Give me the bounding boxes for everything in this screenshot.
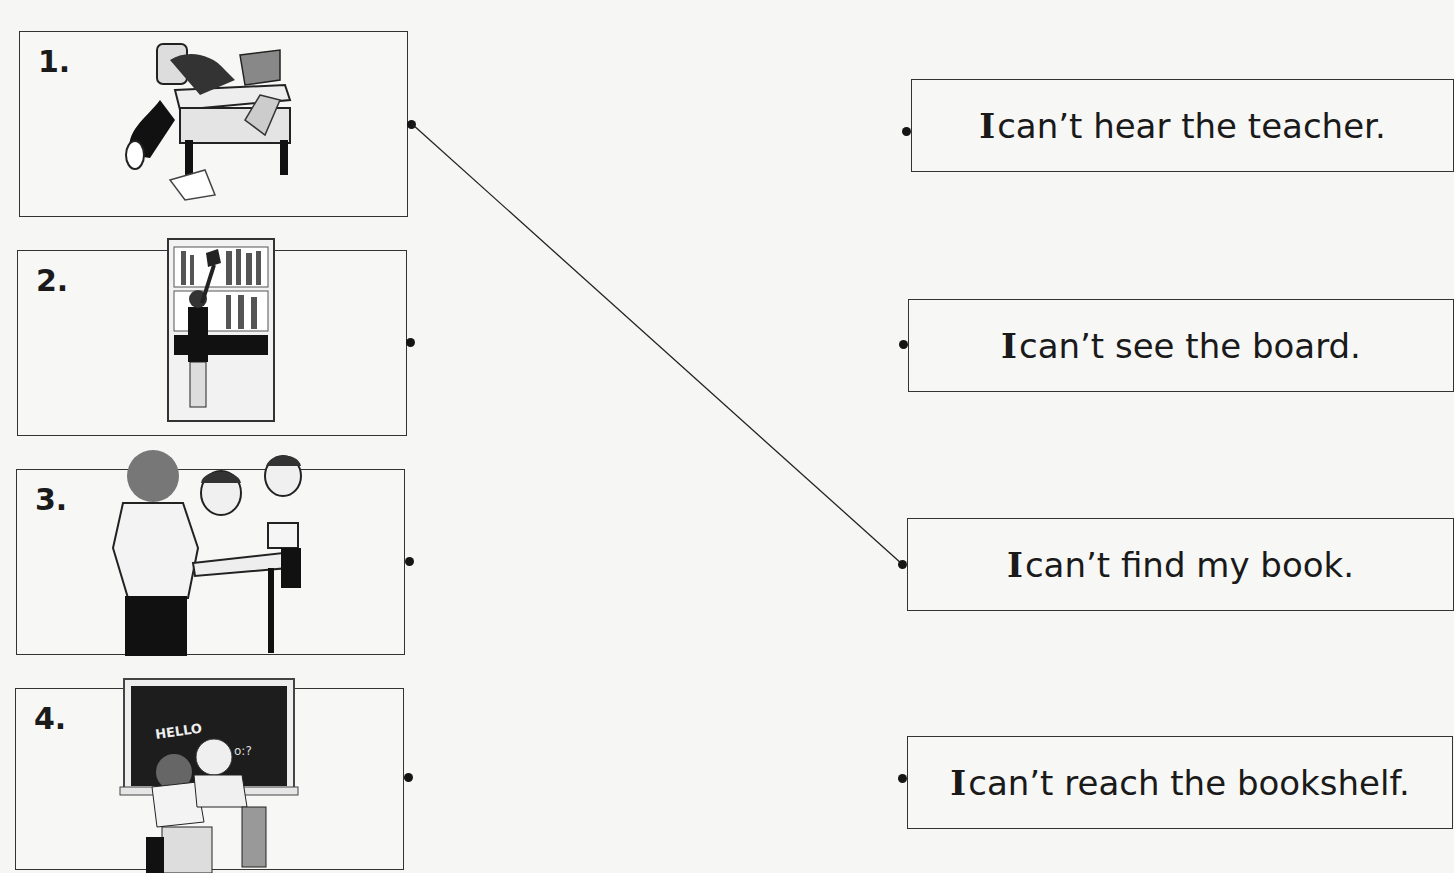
picture-number-2: 2.	[36, 263, 68, 298]
connector-dot-picture-1[interactable]	[407, 120, 416, 129]
sentence-text: can’t hear the teacher.	[997, 106, 1386, 146]
picture-number-4: 4.	[34, 701, 66, 736]
classroom-teacher-icon	[103, 448, 323, 656]
sentence-lead: I	[950, 763, 966, 803]
connector-dot-picture-4[interactable]	[404, 773, 413, 782]
connector-dot-sentence-3[interactable]	[898, 560, 907, 569]
sentence-text: can’t see the board.	[1019, 326, 1361, 366]
messy-desk-icon	[115, 40, 315, 205]
connector-dot-sentence-2[interactable]	[899, 340, 908, 349]
sentence-lead: I	[1001, 326, 1017, 366]
connector-dot-picture-3[interactable]	[405, 557, 414, 566]
sentence-lead: I	[1007, 545, 1023, 585]
sentence-text: can’t find my book.	[1025, 545, 1354, 585]
svg-text:o:?: o:?	[234, 744, 252, 758]
sentence-box-reach-bookshelf[interactable]: I can’t reach the bookshelf.	[907, 736, 1453, 829]
sentence-box-hear-teacher[interactable]: I can’t hear the teacher.	[911, 79, 1454, 172]
connector-dot-sentence-1[interactable]	[902, 127, 911, 136]
sentence-lead: I	[979, 106, 995, 146]
chalkboard-icon: HELLO o:?	[122, 677, 304, 873]
picture-number-3: 3.	[35, 482, 67, 517]
sentence-text: can’t reach the bookshelf.	[968, 763, 1409, 803]
connector-dot-picture-2[interactable]	[406, 338, 415, 347]
picture-box-4: 4. HELLO o:?	[15, 688, 404, 870]
connector-dot-sentence-4[interactable]	[898, 774, 907, 783]
picture-box-1: 1.	[19, 31, 408, 217]
picture-box-3: 3.	[16, 469, 405, 655]
picture-box-2: 2.	[17, 250, 407, 436]
sentence-box-see-board[interactable]: I can’t see the board.	[908, 299, 1454, 392]
sentence-box-find-book[interactable]: I can’t find my book.	[907, 518, 1454, 611]
picture-number-1: 1.	[38, 44, 70, 79]
bookshelf-icon	[166, 237, 278, 423]
